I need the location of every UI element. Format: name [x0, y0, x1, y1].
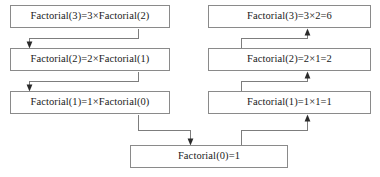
arrowhead-up-r3 — [305, 29, 311, 36]
connector-r1-to-r2 — [242, 72, 311, 92]
node-label: Factorial(3)=3×Factorial(2) — [31, 11, 150, 22]
node-factorial-3-result: Factorial(3)=3×2=6 — [208, 5, 371, 28]
node-factorial-1-result: Factorial(1)=1×1=1 — [208, 91, 371, 114]
arrowhead-up-r2 — [305, 72, 311, 79]
connector-r2-to-r3 — [242, 29, 311, 49]
node-factorial-3-call: Factorial(3)=3×Factorial(2) — [10, 5, 170, 28]
connector-l3-to-l2 — [27, 29, 139, 49]
node-factorial-2-result: Factorial(2)=2×1=2 — [208, 48, 371, 71]
factorial-recursion-diagram: Factorial(3)=3×Factorial(2) Factorial(2)… — [0, 0, 380, 177]
node-label: Factorial(1)=1×Factorial(0) — [31, 97, 150, 108]
node-factorial-0-base-case: Factorial(0)=1 — [130, 145, 288, 168]
node-label: Factorial(1)=1×1=1 — [247, 97, 332, 108]
node-label: Factorial(2)=2×1=2 — [247, 54, 332, 65]
node-factorial-2-call: Factorial(2)=2×Factorial(1) — [10, 48, 170, 71]
node-label: Factorial(2)=2×Factorial(1) — [31, 54, 150, 65]
node-label: Factorial(0)=1 — [178, 151, 240, 162]
node-factorial-1-call: Factorial(1)=1×Factorial(0) — [10, 91, 170, 114]
node-label: Factorial(3)=3×2=6 — [247, 11, 332, 22]
connector-l1-to-b0 — [139, 115, 194, 146]
connector-b0-to-r1 — [242, 115, 311, 146]
connector-l2-to-l1 — [27, 72, 139, 92]
arrowhead-up-r1 — [305, 115, 311, 122]
